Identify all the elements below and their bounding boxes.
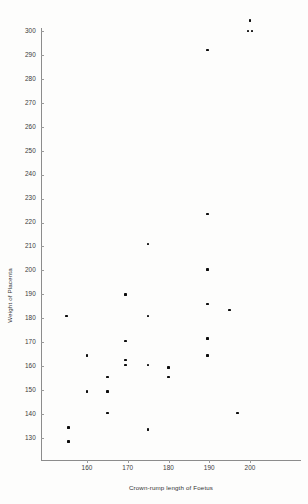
scatter-plot-figure: 1301401501601701801902002102202302402502… [0, 0, 308, 504]
data-point [249, 19, 252, 22]
data-point [206, 49, 209, 52]
data-point [206, 213, 209, 216]
data-point [206, 268, 209, 271]
data-point [206, 303, 209, 306]
data-point [147, 364, 150, 367]
data-point [65, 315, 68, 318]
data-point [251, 30, 254, 33]
data-point [124, 364, 127, 367]
data-points-layer [0, 0, 308, 504]
data-point [124, 340, 127, 343]
data-point [167, 366, 170, 369]
data-point [206, 337, 209, 340]
data-point [86, 354, 89, 357]
x-axis-title: Crown-rump length of Foetus [41, 484, 301, 491]
data-point [106, 412, 109, 415]
data-point [167, 376, 170, 379]
data-point [247, 30, 250, 33]
data-point [67, 426, 70, 429]
data-point [86, 390, 89, 393]
data-point [106, 376, 109, 379]
data-point [106, 390, 109, 393]
data-point [228, 309, 231, 312]
data-point [206, 354, 209, 357]
data-point [147, 315, 150, 318]
data-point [147, 428, 150, 431]
data-point [147, 243, 150, 246]
y-axis-title: Weight of Placenta [6, 261, 13, 331]
data-point [236, 412, 239, 415]
data-point [124, 293, 127, 296]
data-point [67, 440, 70, 443]
data-point [124, 359, 127, 362]
